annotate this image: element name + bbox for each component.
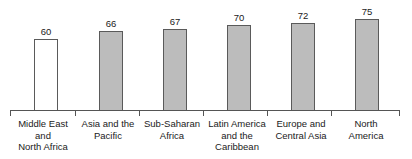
category-label-line: North — [333, 118, 399, 130]
bar-value-label: 67 — [170, 16, 181, 27]
axis-tick — [139, 110, 140, 116]
axis-tick — [203, 110, 204, 116]
category-label-line: North Africa — [10, 141, 76, 153]
category-label: Asia and the Pacific — [75, 118, 141, 141]
axis-tick — [331, 110, 332, 116]
category-label-line: Central Asia — [268, 130, 334, 142]
axis-tick — [10, 110, 11, 116]
category-label-line: Middle East — [10, 118, 76, 130]
plot-area: 60 66 67 70 72 75 — [0, 0, 412, 111]
bar-value-label: 66 — [106, 18, 117, 29]
category-label: Latin America and the Caribbean — [203, 118, 271, 153]
category-label-line: Latin America — [203, 118, 271, 130]
category-label-line: and — [10, 130, 76, 142]
axis-tick — [399, 110, 400, 116]
bar-value-label: 70 — [234, 12, 245, 23]
category-label-line: Caribbean — [203, 141, 271, 153]
bar — [227, 25, 251, 111]
category-label: Europe and Central Asia — [268, 118, 334, 141]
bar — [163, 29, 187, 111]
category-label-line: Sub-Saharan — [139, 118, 205, 130]
category-label: Sub-Saharan Africa — [139, 118, 205, 141]
bar — [355, 19, 379, 111]
category-label-line: Asia and the — [75, 118, 141, 130]
axis-tick — [267, 110, 268, 116]
category-label-line: America — [333, 130, 399, 142]
bar — [34, 39, 58, 111]
bar-value-label: 60 — [41, 26, 52, 37]
bar — [99, 31, 123, 111]
category-label-line: Europe and — [268, 118, 334, 130]
x-axis — [10, 110, 400, 111]
category-labels: Middle East and North Africa Asia and th… — [0, 118, 412, 159]
category-label-line: Africa — [139, 130, 205, 142]
category-label-line: Pacific — [75, 130, 141, 142]
bar-chart: 60 66 67 70 72 75 — [0, 0, 412, 159]
axis-tick — [75, 110, 76, 116]
bar — [291, 23, 315, 111]
bar-value-label: 75 — [362, 6, 373, 17]
category-label: Middle East and North Africa — [10, 118, 76, 153]
category-label: North America — [333, 118, 399, 141]
category-label-line: and the — [203, 130, 271, 142]
bar-value-label: 72 — [298, 10, 309, 21]
